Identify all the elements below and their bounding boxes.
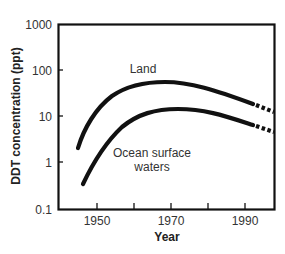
y-tick-label-10: 10 (39, 110, 53, 124)
y-tick-label-100: 100 (32, 64, 52, 78)
x-tick-label-1970: 1970 (158, 214, 185, 228)
ddt-concentration-chart: 1000 100 10 1 0.1 1950 1970 1990 Year DD… (0, 0, 285, 254)
x-axis-title: Year (154, 230, 180, 244)
land-series-extrapolation (256, 105, 274, 112)
ocean-series-extrapolation (256, 126, 274, 132)
y-tick-label-1000: 1000 (25, 18, 52, 32)
x-axis-ticks (97, 203, 245, 209)
ocean-series-label-line2: waters (133, 160, 169, 174)
x-tick-label-1990: 1990 (232, 214, 259, 228)
y-tick-label-1: 1 (45, 156, 52, 170)
y-tick-label-0-1: 0.1 (35, 203, 52, 217)
land-series-label: Land (130, 62, 157, 76)
y-axis-title: DDT concentration (ppt) (9, 47, 23, 184)
x-tick-label-1950: 1950 (84, 214, 111, 228)
ocean-series-label-line1: Ocean surface (113, 146, 191, 160)
